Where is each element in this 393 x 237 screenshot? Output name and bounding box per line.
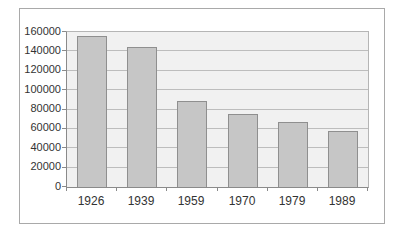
y-axis-label: 80000 [21, 103, 61, 114]
x-axis-tick [166, 187, 167, 191]
y-axis-label: 0 [21, 181, 61, 192]
x-axis-label: 1979 [267, 195, 317, 207]
x-axis-tick [317, 187, 318, 191]
x-axis-label: 1939 [116, 195, 166, 207]
plot-area [66, 31, 369, 188]
x-axis-tick [367, 187, 368, 191]
x-axis-tick [116, 187, 117, 191]
x-axis-label: 1989 [317, 195, 367, 207]
gridline [67, 109, 368, 110]
bar-1989 [328, 131, 358, 187]
bar-1939 [127, 47, 157, 187]
gridline [67, 128, 368, 129]
x-axis-tick [217, 187, 218, 191]
y-axis-label: 160000 [21, 26, 61, 37]
y-axis-tick [62, 147, 66, 148]
y-axis-label: 20000 [21, 161, 61, 172]
gridline [67, 50, 368, 51]
bar-1926 [77, 36, 107, 187]
y-axis-label: 60000 [21, 122, 61, 133]
y-axis-label: 140000 [21, 45, 61, 56]
y-axis-tick [62, 70, 66, 71]
gridline [67, 70, 368, 71]
chart-frame: 0200004000060000800001000001200001400001… [19, 8, 385, 224]
gridline [67, 147, 368, 148]
y-axis-tick [62, 31, 66, 32]
y-axis-tick [62, 109, 66, 110]
y-axis-label: 40000 [21, 142, 61, 153]
y-axis-label: 120000 [21, 64, 61, 75]
y-axis-tick [62, 89, 66, 90]
bar-1979 [278, 122, 308, 187]
y-axis-tick [62, 50, 66, 51]
bar-1959 [177, 101, 207, 187]
x-axis-tick [267, 187, 268, 191]
x-axis-tick [66, 187, 67, 191]
bar-1970 [228, 114, 258, 187]
x-axis-label: 1959 [166, 195, 216, 207]
y-axis-tick [62, 128, 66, 129]
gridline [67, 89, 368, 90]
x-axis-label: 1926 [66, 195, 116, 207]
x-axis-label: 1970 [217, 195, 267, 207]
y-axis-label: 100000 [21, 84, 61, 95]
page: { "chart_data": { "type": "bar", "title"… [0, 0, 393, 237]
y-axis-tick [62, 167, 66, 168]
gridline [67, 167, 368, 168]
